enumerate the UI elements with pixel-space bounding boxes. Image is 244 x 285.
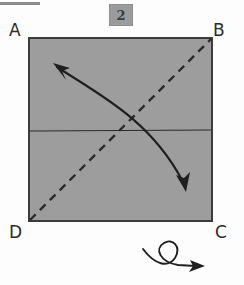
diagram-canvas: 2 A B C D xyxy=(0,0,244,285)
corner-label-a: A xyxy=(9,22,21,39)
turn-over-arrow-shaft xyxy=(143,241,196,266)
corner-label-b: B xyxy=(213,22,225,39)
step-number-badge: 2 xyxy=(109,4,133,26)
corner-label-d: D xyxy=(9,224,22,241)
paper-sheet xyxy=(28,37,213,222)
turn-over-arrowhead xyxy=(189,260,205,272)
corner-label-c: C xyxy=(215,224,227,241)
page-rule-mark xyxy=(0,2,40,5)
